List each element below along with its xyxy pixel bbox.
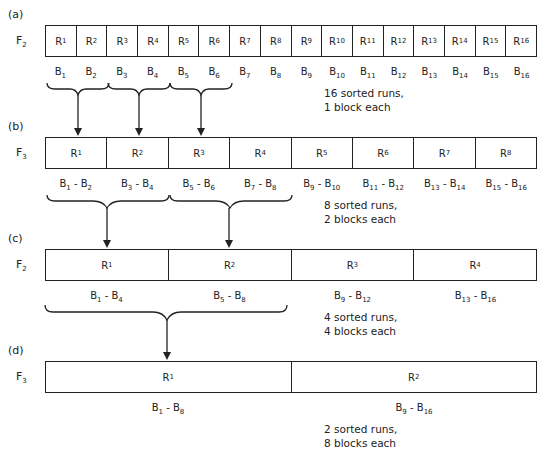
runs-summary: 8 sorted runs,2 blocks each	[324, 198, 397, 226]
run-cell: R2	[107, 138, 168, 168]
block-range: B13 - B16	[414, 290, 537, 304]
block-labels: B1 - B2B3 - B4B5 - B6B7 - B8B9 - B10B11 …	[45, 178, 537, 192]
run-cell: R16	[506, 26, 536, 56]
run-cell: R1	[46, 362, 292, 392]
run-cell: R8	[476, 138, 536, 168]
block-labels: B1B2B3B4B5B6B7B8B9B10B11B12B13B14B15B16	[45, 66, 537, 80]
run-cell: R5	[169, 26, 200, 56]
block-range: B9 - B16	[291, 402, 537, 416]
block-range: B1 - B4	[45, 290, 168, 304]
run-cell: R6	[353, 138, 414, 168]
run-cell: R7	[414, 138, 475, 168]
run-cell: R3	[169, 138, 230, 168]
run-cell: R7	[230, 26, 261, 56]
runs-summary: 2 sorted runs,8 blocks each	[324, 422, 397, 450]
run-cell: R3	[107, 26, 138, 56]
block-range: B16	[506, 66, 537, 80]
run-row: R1R2R3R4R5R6R7R8R9R10R11R12R13R14R15R16	[45, 25, 537, 57]
block-range: B13 - B14	[414, 178, 476, 192]
block-range: B3 - B4	[107, 178, 169, 192]
file-label: F2	[16, 258, 27, 273]
block-range: B5 - B6	[168, 178, 230, 192]
run-cell: R8	[261, 26, 292, 56]
run-cell: R4	[138, 26, 169, 56]
block-range: B12	[383, 66, 414, 80]
run-row: R1R2R3R4R5R6R7R8	[45, 137, 537, 169]
run-cell: R4	[230, 138, 291, 168]
run-cell: R15	[476, 26, 507, 56]
block-range: B2	[76, 66, 107, 80]
run-cell: R1	[46, 250, 169, 280]
block-range: B11 - B12	[353, 178, 415, 192]
runs-summary: 16 sorted runs,1 block each	[324, 86, 404, 114]
run-cell: R4	[414, 250, 536, 280]
run-cell: R1	[46, 138, 107, 168]
run-cell: R9	[292, 26, 323, 56]
run-cell: R5	[292, 138, 353, 168]
block-range: B10	[322, 66, 353, 80]
block-range: B4	[137, 66, 168, 80]
run-cell: R2	[77, 26, 108, 56]
block-range: B15	[476, 66, 507, 80]
run-row: R1R2	[45, 361, 537, 393]
block-labels: B1 - B4B5 - B8B9 - B12B13 - B16	[45, 290, 537, 304]
run-cell: R10	[322, 26, 353, 56]
file-label: F3	[16, 146, 27, 161]
block-range: B1 - B8	[45, 402, 291, 416]
block-range: B7	[230, 66, 261, 80]
pass-label: (c)	[8, 232, 23, 245]
block-range: B7 - B8	[230, 178, 292, 192]
file-label: F3	[16, 370, 27, 385]
block-range: B13	[414, 66, 445, 80]
run-row: R1R2R3R4	[45, 249, 537, 281]
runs-summary: 4 sorted runs,4 blocks each	[324, 310, 397, 338]
block-range: B11	[353, 66, 384, 80]
run-cell: R1	[46, 26, 77, 56]
run-cell: R2	[169, 250, 292, 280]
block-labels: B1 - B8B9 - B16	[45, 402, 537, 416]
run-cell: R14	[445, 26, 476, 56]
block-range: B1 - B2	[45, 178, 107, 192]
run-cell: R13	[414, 26, 445, 56]
block-range: B3	[107, 66, 138, 80]
block-range: B14	[445, 66, 476, 80]
block-range: B9 - B10	[291, 178, 353, 192]
block-range: B5	[168, 66, 199, 80]
run-cell: R2	[292, 362, 537, 392]
pass-label: (a)	[8, 8, 23, 21]
pass-label: (d)	[8, 344, 24, 357]
block-range: B8	[260, 66, 291, 80]
run-cell: R12	[384, 26, 415, 56]
block-range: B9 - B12	[291, 290, 414, 304]
run-cell: R11	[353, 26, 384, 56]
block-range: B6	[199, 66, 230, 80]
file-label: F2	[16, 34, 27, 49]
block-range: B15 - B16	[476, 178, 538, 192]
run-cell: R6	[199, 26, 230, 56]
run-cell: R3	[292, 250, 415, 280]
block-range: B9	[291, 66, 322, 80]
block-range: B1	[45, 66, 76, 80]
block-range: B5 - B8	[168, 290, 291, 304]
pass-label: (b)	[8, 120, 24, 133]
